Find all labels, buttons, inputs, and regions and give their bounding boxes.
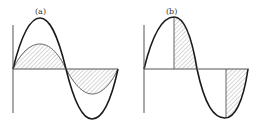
figure-canvas: (a) (b) [0,0,263,128]
panel-a-label: (a) [35,7,46,16]
panel-b-label: (b) [166,7,177,16]
panel-b-hatched-area-positive [174,17,197,69]
panel-b: (b) [144,7,249,118]
panel-b-hatched-area-negative [226,69,248,118]
panel-a: (a) [13,7,118,119]
